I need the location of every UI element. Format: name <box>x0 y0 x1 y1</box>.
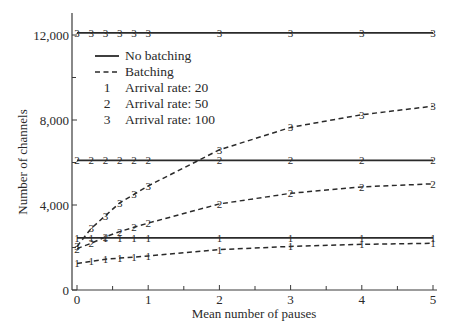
x-tick-label: 3 <box>287 292 294 307</box>
data-point-marker: 2 <box>217 154 223 166</box>
data-point-marker: 1 <box>131 251 137 263</box>
data-point-marker: 2 <box>103 231 109 243</box>
series-no-batching-rate-3: 3333333333 <box>74 27 436 39</box>
x-tick-label: 1 <box>145 292 152 307</box>
data-point-marker: 1 <box>145 232 151 244</box>
data-point-marker: 2 <box>359 181 365 193</box>
data-point-marker: 2 <box>145 217 151 229</box>
data-point-marker: 1 <box>288 240 294 252</box>
data-point-marker: 3 <box>74 27 80 39</box>
data-point-marker: 2 <box>217 198 223 210</box>
data-point-marker: 1 <box>74 257 80 269</box>
data-point-marker: 2 <box>359 154 365 166</box>
legend: No batchingBatching1Arrival rate: 202Arr… <box>95 48 215 127</box>
data-point-marker: 3 <box>145 27 151 39</box>
y-tick-label: 12,000 <box>33 28 69 43</box>
legend-marker: 2 <box>104 96 111 111</box>
data-point-marker: 3 <box>117 197 123 209</box>
data-point-marker: 3 <box>131 27 137 39</box>
data-point-marker: 3 <box>103 210 109 222</box>
data-point-marker: 1 <box>217 232 223 244</box>
data-point-marker: 1 <box>430 237 436 249</box>
legend-marker: 1 <box>104 80 111 95</box>
x-tick-label: 2 <box>216 292 223 307</box>
y-tick-label: 8,000 <box>40 113 69 128</box>
data-point-marker: 2 <box>88 154 94 166</box>
x-tick-label: 0 <box>74 292 81 307</box>
line-chart: 04,0008,00012,000012345 1111111111222222… <box>0 0 455 331</box>
chart: 04,0008,00012,000012345 1111111111222222… <box>0 0 455 331</box>
series-no-batching-rate-1: 1111111111 <box>74 232 436 244</box>
data-point-marker: 2 <box>117 154 123 166</box>
legend-marker: 3 <box>104 112 111 127</box>
data-point-marker: 2 <box>288 187 294 199</box>
data-point-marker: 2 <box>117 226 123 238</box>
data-point-marker: 2 <box>131 154 137 166</box>
y-tick-label: 4,000 <box>40 198 69 213</box>
y-axis-label: Number of channels <box>15 109 30 214</box>
data-point-marker: 3 <box>117 27 123 39</box>
data-point-marker: 3 <box>103 27 109 39</box>
data-point-marker: 2 <box>430 178 436 190</box>
data-point-marker: 3 <box>145 180 151 192</box>
data-point-marker: 1 <box>145 250 151 262</box>
data-point-marker: 3 <box>288 27 294 39</box>
legend-label: Batching <box>125 64 174 79</box>
series-batching-rate-2: 2222222222 <box>74 178 436 255</box>
data-point-marker: 3 <box>217 144 223 156</box>
data-point-marker: 2 <box>131 221 137 233</box>
data-point-marker: 2 <box>430 154 436 166</box>
data-point-marker: 1 <box>88 255 94 267</box>
data-point-marker: 2 <box>74 154 80 166</box>
data-point-marker: 2 <box>103 154 109 166</box>
data-point-marker: 3 <box>88 27 94 39</box>
legend-label: Arrival rate: 100 <box>125 112 215 127</box>
data-point-marker: 3 <box>88 222 94 234</box>
data-point-marker: 3 <box>430 27 436 39</box>
data-point-marker: 3 <box>74 240 80 252</box>
x-axis-label: Mean number of pauses <box>192 306 317 321</box>
y-tick-label: 0 <box>63 283 70 298</box>
legend-label: No batching <box>125 48 192 63</box>
data-point-marker: 1 <box>217 244 223 256</box>
series-batching-rate-1: 1111111111 <box>74 237 436 269</box>
data-point-marker: 3 <box>288 121 294 133</box>
legend-label: Arrival rate: 20 <box>125 80 208 95</box>
data-point-marker: 1 <box>359 238 365 250</box>
x-tick-label: 5 <box>430 292 437 307</box>
data-point-marker: 3 <box>430 100 436 112</box>
data-point-marker: 3 <box>131 188 137 200</box>
data-point-marker: 3 <box>217 27 223 39</box>
data-point-marker: 3 <box>359 109 365 121</box>
data-point-marker: 2 <box>145 154 151 166</box>
data-point-marker: 2 <box>288 154 294 166</box>
data-point-marker: 3 <box>359 27 365 39</box>
data-point-marker: 2 <box>88 237 94 249</box>
data-point-marker: 1 <box>131 232 137 244</box>
legend-label: Arrival rate: 50 <box>125 96 208 111</box>
data-point-marker: 1 <box>117 252 123 264</box>
data-point-marker: 1 <box>103 253 109 265</box>
series-no-batching-rate-2: 2222222222 <box>74 154 436 166</box>
x-tick-label: 4 <box>359 292 366 307</box>
